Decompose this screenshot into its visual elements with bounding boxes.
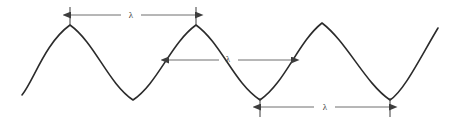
lambda-label-trough: λ <box>323 102 328 112</box>
lambda-label-midline: λ <box>226 54 231 64</box>
wavelength-figure: λ λ λ <box>0 0 459 122</box>
wave-diagram-svg: λ λ λ <box>0 0 459 122</box>
lambda-label-crest: λ <box>129 10 134 20</box>
